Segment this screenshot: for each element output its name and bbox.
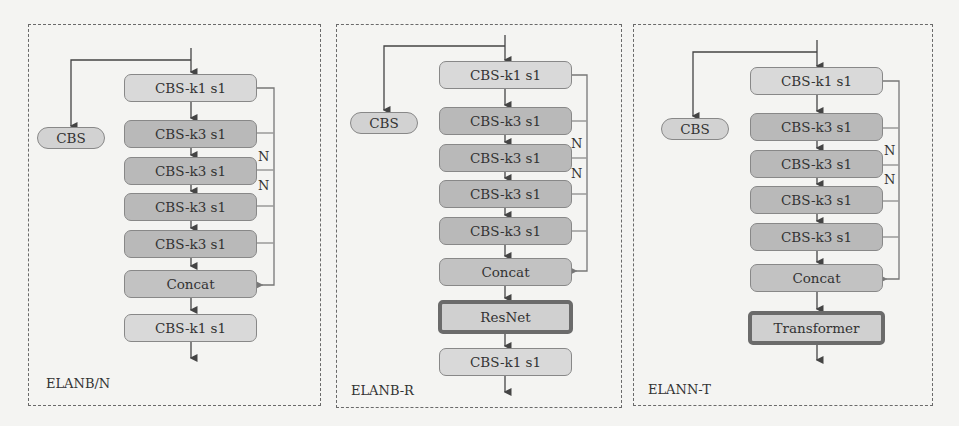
cbs-block: CBS bbox=[661, 118, 729, 140]
concat-block: Concat bbox=[124, 270, 257, 298]
block: CBS-k3 s1 bbox=[750, 150, 883, 178]
block: CBS-k3 s1 bbox=[439, 217, 572, 245]
panel-label: ELANN-T bbox=[648, 382, 711, 397]
n-label: N bbox=[258, 178, 269, 193]
block: CBS-k3 s1 bbox=[439, 144, 572, 172]
panel-label: ELANB/N bbox=[46, 376, 110, 391]
block: CBS-k3 s1 bbox=[124, 120, 257, 148]
block: CBS-k3 s1 bbox=[750, 223, 883, 251]
block: CBS-k3 s1 bbox=[439, 107, 572, 135]
n-label: N bbox=[571, 136, 582, 151]
panel-label: ELANB-R bbox=[351, 383, 414, 398]
n-label: N bbox=[571, 166, 582, 181]
cbs-block: CBS bbox=[350, 112, 418, 134]
block: CBS-k1 s1 bbox=[124, 314, 257, 342]
block: CBS-k1 s1 bbox=[124, 74, 257, 102]
block: CBS-k3 s1 bbox=[124, 157, 257, 185]
block: CBS-k1 s1 bbox=[439, 348, 572, 376]
cbs-block: CBS bbox=[37, 127, 105, 149]
block: CBS-k1 s1 bbox=[750, 67, 883, 95]
transformer-block: Transformer bbox=[748, 311, 885, 345]
block: CBS-k3 s1 bbox=[439, 180, 572, 208]
resnet-block: ResNet bbox=[438, 300, 573, 334]
block: CBS-k1 s1 bbox=[439, 61, 572, 89]
concat-block: Concat bbox=[750, 264, 883, 292]
block: CBS-k3 s1 bbox=[124, 193, 257, 221]
n-label: N bbox=[884, 172, 895, 187]
block: CBS-k3 s1 bbox=[124, 230, 257, 258]
n-label: N bbox=[884, 143, 895, 158]
block: CBS-k3 s1 bbox=[750, 113, 883, 141]
block: CBS-k3 s1 bbox=[750, 186, 883, 214]
n-label: N bbox=[258, 149, 269, 164]
concat-block: Concat bbox=[439, 258, 572, 286]
